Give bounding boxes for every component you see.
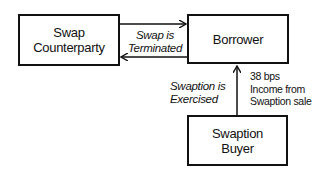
swaption-buyer-label-2: Buyer	[212, 141, 263, 156]
swaption-buyer-label-1: Swaption	[212, 126, 263, 141]
income-note-line-3: Swaption sale	[250, 95, 320, 108]
borrower-label: Borrower	[213, 32, 263, 47]
swaption-buyer-box: Swaption Buyer	[187, 115, 288, 166]
swap-counterparty-label-2: Counterparty	[33, 40, 105, 55]
swap-terminated-line-2: Terminated	[124, 42, 186, 55]
income-note-line-1: 38 bps	[250, 70, 320, 83]
swap-counterparty-box: Swap Counterparty	[18, 14, 120, 66]
swaption-exercised-label: Swaption is Exercised	[170, 80, 232, 106]
swap-counterparty-label-1: Swap	[33, 25, 105, 40]
swaption-exercised-line-1: Swaption is	[170, 80, 232, 93]
swaption-exercised-line-2: Exercised	[170, 93, 232, 106]
borrower-box: Borrower	[187, 14, 289, 64]
income-note-line-2: Income from	[250, 83, 320, 96]
swap-terminated-line-1: Swap is	[124, 29, 186, 42]
income-note: 38 bps Income from Swaption sale	[250, 70, 320, 108]
swap-terminated-label: Swap is Terminated	[124, 29, 186, 55]
